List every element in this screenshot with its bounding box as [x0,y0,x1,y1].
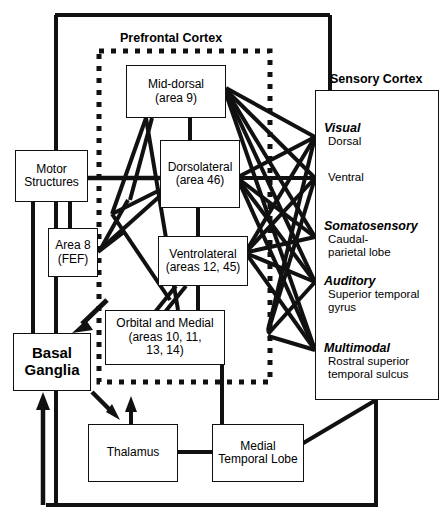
sensory-cortex-label: Sensory Cortex [330,72,422,86]
node-orbital-line1: Orbital and Medial [116,317,213,330]
sensory-region-auditory: Auditory Superior temporal gyrus [324,274,419,314]
node-motor-line2: Structures [24,176,79,189]
diagram-canvas: Prefrontal Cortex Sensory Cortex Visual … [0,0,441,522]
node-area8-line2: (FEF) [58,253,89,266]
sensory-sub-auditory-2: gyrus [324,301,419,314]
sensory-sub-multimodal-2: temporal sulcus [324,368,409,381]
node-dorsolateral-line1: Dorsolateral [168,161,233,174]
node-area-8-fef[interactable]: Area 8 (FEF) [48,228,98,277]
node-orbital-and-medial[interactable]: Orbital and Medial (areas 10, 11, 13, 14… [105,310,225,365]
edge-area8-pfc [98,232,124,252]
node-dorsolateral[interactable]: Dorsolateral (area 46) [160,140,240,208]
node-mid-dorsal-line2: (area 9) [155,92,197,105]
arrowhead-thalamus-basal [125,396,137,412]
sensory-sub-somatosensory-2: parietal lobe [324,246,418,259]
arrowhead-frame-basal [36,392,50,410]
node-basal-ganglia[interactable]: Basal Ganglia [13,333,91,391]
node-area8-line1: Area 8 [55,239,90,252]
node-mid-dorsal-line1: Mid-dorsal [148,78,204,91]
sensory-heading-visual: Visual [324,121,361,135]
sensory-heading-auditory: Auditory [324,274,419,288]
node-thalamus[interactable]: Thalamus [88,424,178,482]
node-ventrolateral[interactable]: Ventrolateral (areas 12, 45) [158,236,248,286]
sensory-heading-multimodal: Multimodal [324,341,409,355]
node-dorsolateral-line2: (area 46) [176,174,225,187]
sensory-region-multimodal: Multimodal Rostral superior temporal sul… [324,341,409,381]
node-basal-line1: Basal [32,345,72,362]
sensory-sub-somatosensory-1: Caudal- [324,233,418,246]
prefrontal-cortex-label: Prefrontal Cortex [120,31,222,45]
edge-sensory-medialtemporal [300,400,376,445]
node-basal-line2: Ganglia [24,362,79,379]
node-motor-structures[interactable]: Motor Structures [15,150,88,202]
sensory-region-visual-ventral: Ventral [324,171,364,184]
node-thalamus-line1: Thalamus [107,446,160,459]
node-orbital-line3: 13, 14) [146,344,183,357]
node-orbital-line2: (areas 10, 11, [128,331,201,344]
node-motor-line1: Motor [36,163,67,176]
sensory-sub-auditory-1: Superior temporal [324,288,419,301]
sensory-cortex-box[interactable]: Visual Dorsal Ventral Somatosensory Caud… [315,90,439,400]
sensory-region-visual: Visual Dorsal [324,121,361,148]
node-mid-dorsal[interactable]: Mid-dorsal (area 9) [126,65,226,118]
sensory-region-somatosensory: Somatosensory Caudal- parietal lobe [324,219,418,259]
node-medial-temporal-line1: Medial [240,440,275,453]
sensory-sub-visual-ventral: Ventral [324,171,364,184]
node-medial-temporal-line2: Temporal Lobe [218,453,297,466]
sensory-sub-multimodal-1: Rostral superior [324,355,409,368]
sensory-sub-visual-dorsal: Dorsal [324,135,361,148]
node-ventrolateral-line1: Ventrolateral [169,248,236,261]
node-ventrolateral-line2: (areas 12, 45) [166,261,241,274]
node-medial-temporal-lobe[interactable]: Medial Temporal Lobe [212,424,304,482]
sensory-heading-somatosensory: Somatosensory [324,219,418,233]
